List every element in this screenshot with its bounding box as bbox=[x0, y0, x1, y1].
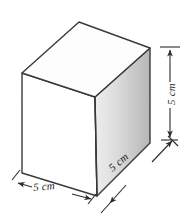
depth-arrow-near bbox=[110, 185, 126, 203]
cube-figure-svg bbox=[0, 0, 194, 224]
width-arrow-right bbox=[72, 194, 91, 199]
height-dimension-label: 5 cm bbox=[165, 83, 177, 105]
width-tick-left bbox=[12, 170, 20, 180]
width-dimension-label: 5 cm bbox=[33, 179, 56, 193]
cube-dimension-diagram: 5 cm 5 cm 5 cm bbox=[0, 0, 194, 224]
cube-body bbox=[22, 22, 150, 196]
depth-tick-near bbox=[101, 203, 110, 213]
depth-tick-far bbox=[168, 136, 178, 146]
width-arrow-left bbox=[18, 183, 32, 187]
depth-arrow-far bbox=[152, 141, 172, 162]
